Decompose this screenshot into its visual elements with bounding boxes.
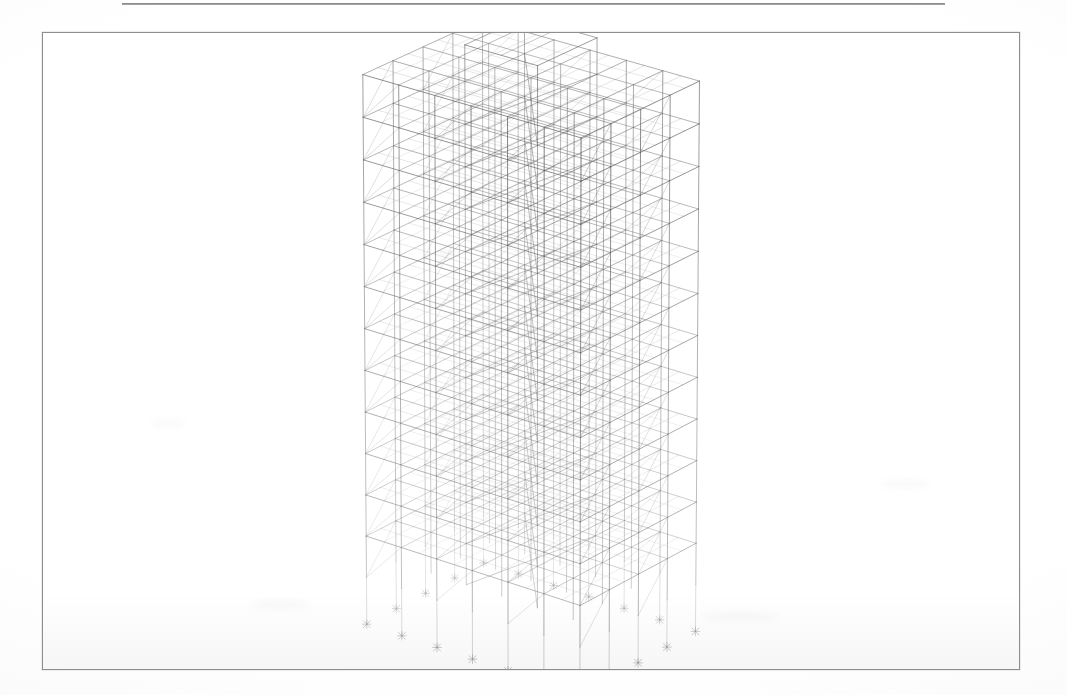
- brace-diagonal: [366, 397, 395, 453]
- slab-joist-x: [468, 69, 685, 131]
- pinned-support-symbol: [656, 616, 664, 624]
- pinned-support-symbol: [422, 589, 430, 597]
- floor-beam-x: [396, 521, 610, 590]
- brace-diagonal: [423, 33, 453, 89]
- pinned-support-symbol: [468, 655, 477, 664]
- slab-joist-y: [562, 496, 678, 558]
- pinned-support-symbol: [392, 605, 400, 613]
- floor-beam-x: [395, 439, 609, 507]
- floor-beam-y: [544, 491, 660, 552]
- brace-diagonal: [483, 114, 518, 146]
- slab-joist-x: [381, 487, 595, 556]
- pinned-support-symbol: [480, 559, 488, 567]
- floor-beam-y: [508, 272, 626, 331]
- brace-diagonal: [424, 243, 453, 299]
- brace-diagonal: [640, 95, 670, 152]
- floor-beam-y: [508, 438, 625, 499]
- slab-joist-x: [468, 111, 684, 174]
- floor-beam-x: [364, 287, 580, 353]
- slab-joist-x: [380, 446, 595, 514]
- floor-beam-x: [453, 118, 670, 181]
- floor-beam-x: [425, 424, 639, 491]
- brace-diagonal: [366, 480, 395, 536]
- slab-joist-y: [562, 161, 680, 219]
- brace-diagonal: [626, 156, 662, 188]
- floor-beam-y: [508, 479, 625, 540]
- slab-joist-x: [410, 472, 624, 540]
- floor-beam-x: [454, 368, 668, 434]
- floor-beam-y: [508, 230, 626, 288]
- slab-joist-y: [562, 413, 679, 474]
- pinned-support-symbol: [433, 643, 442, 652]
- brace-diagonal: [483, 198, 518, 229]
- pinned-support-symbol: [398, 632, 406, 640]
- brace-diagonal: [363, 103, 393, 160]
- slab-joist-x: [469, 442, 682, 509]
- floor-beam-x: [454, 491, 667, 559]
- slab-joist-x: [381, 529, 595, 598]
- brace-diagonal: [640, 266, 669, 323]
- floor-beam-x: [424, 341, 639, 407]
- floor-beam-x: [364, 202, 581, 267]
- slab-joist-y: [562, 455, 679, 516]
- floor-beam-x: [395, 314, 611, 380]
- brace-diagonal: [508, 594, 544, 624]
- penthouse-roof-beam: [501, 33, 561, 55]
- floor-beam-x: [454, 285, 669, 350]
- floor-beam-x: [366, 536, 580, 605]
- slab-joist-y: [526, 526, 642, 588]
- figure-frame-border: [42, 32, 1020, 670]
- floor-beam-x: [394, 188, 611, 253]
- page-header-rule: [122, 3, 945, 5]
- pinned-support-symbol: [663, 643, 672, 652]
- brace-diagonal: [638, 517, 667, 574]
- pinned-support-symbol: [549, 581, 557, 589]
- pinned-support-symbol: [451, 574, 459, 582]
- brace-diagonal: [640, 138, 670, 195]
- slab-joist-x: [379, 195, 596, 260]
- floor-beam-x: [363, 75, 581, 138]
- floor-beam-y: [544, 241, 662, 300]
- brace-diagonal: [626, 198, 662, 230]
- floor-beam-x: [425, 506, 638, 574]
- slab-joist-x: [411, 513, 624, 582]
- floor-beam-x: [453, 202, 669, 266]
- floor-beam-x: [423, 47, 641, 109]
- floor-beam-x: [366, 495, 580, 564]
- brace-diagonal: [508, 127, 545, 159]
- brace-diagonal: [554, 177, 590, 208]
- slab-joist-x: [378, 68, 596, 131]
- floor-beam-x: [483, 435, 696, 502]
- brace-diagonal: [364, 146, 394, 203]
- brace-diagonal: [554, 219, 590, 250]
- slab-joist-y: [562, 538, 678, 600]
- pinned-support-symbol: [363, 620, 371, 628]
- slab-joist-x: [380, 321, 596, 387]
- floor-beam-y: [544, 283, 662, 342]
- floor-beam-x: [396, 480, 610, 548]
- floor-beam-x: [483, 271, 698, 336]
- document-page: [0, 0, 1067, 695]
- floor-beam-x: [453, 76, 670, 138]
- brace-diagonal: [365, 356, 395, 412]
- slab-joist-x: [438, 40, 655, 102]
- floor-beam-x: [365, 370, 580, 437]
- floor-beam-x: [425, 382, 639, 449]
- floor-beam-x: [453, 33, 670, 95]
- slab-joist-x: [380, 363, 595, 430]
- pinned-support-symbol: [504, 667, 513, 669]
- floor-beam-x: [424, 299, 639, 365]
- pinned-support-symbol: [691, 627, 699, 635]
- floor-beam-x: [425, 465, 639, 533]
- brace-diagonal: [581, 124, 611, 182]
- pinned-support-symbol: [514, 570, 522, 578]
- slab-joist-x: [468, 278, 683, 343]
- slab-joist-y: [526, 485, 643, 546]
- brace-diagonal: [365, 314, 395, 370]
- slab-joist-y: [562, 246, 680, 305]
- brace-diagonal: [425, 409, 454, 465]
- slab-joist-y: [562, 288, 679, 347]
- floor-beam-y: [544, 449, 661, 510]
- pinned-support-symbol: [620, 604, 628, 612]
- brace-diagonal: [638, 559, 667, 616]
